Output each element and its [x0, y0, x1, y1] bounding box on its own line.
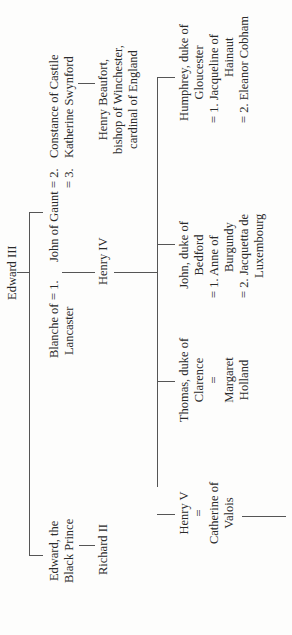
- marriage-2: = 2.: [47, 168, 62, 188]
- richard-ii-connector: [79, 545, 95, 546]
- richard-ii: Richard II: [96, 524, 111, 575]
- henry-vi-connector: [242, 516, 286, 517]
- henry-iv: Henry IV: [96, 237, 111, 285]
- gen3-sibling-line: [157, 77, 158, 487]
- blanche-of-lancaster: Blanche of Lancaster: [47, 304, 77, 359]
- henry-v: Henry V = Catherine of Valois: [177, 481, 237, 545]
- katherine-swynford: Katherine Swynford: [62, 56, 77, 158]
- marriage-1: = 1.: [47, 280, 62, 300]
- gaunt-branch: [29, 212, 43, 213]
- humphrey-duke-of-gloucester: Humphrey, duke of Gloucester = 1. Jacque…: [177, 0, 252, 125]
- constance-of-castile: Constance of Castile: [47, 55, 62, 158]
- gen1-sibling-line: [29, 212, 30, 555]
- clarence-branch: [157, 381, 175, 382]
- henry-beaufort: Henry Beaufort, bishop of Winchester, ca…: [96, 45, 141, 154]
- henry-v-branch: [157, 514, 175, 515]
- edward-iii: Edward III: [5, 246, 20, 301]
- beaufort-connector: [78, 83, 95, 84]
- john-of-gaunt: John of Gaunt: [47, 191, 62, 262]
- john-duke-of-bedford: John, duke of Bedford = 1. Anne of Burgu…: [177, 190, 267, 300]
- marriage-3: = 3.: [62, 168, 77, 188]
- black-prince: Edward, the Black Prince: [47, 519, 77, 583]
- humphrey-branch: [157, 77, 175, 78]
- henry-iv-connector: [62, 272, 95, 273]
- thomas-duke-of-clarence: Thomas, duke of Clarence = Margaret Holl…: [177, 330, 252, 430]
- henry-iv-stem: [114, 272, 157, 273]
- black-prince-branch: [29, 555, 43, 556]
- bedford-branch: [157, 244, 175, 245]
